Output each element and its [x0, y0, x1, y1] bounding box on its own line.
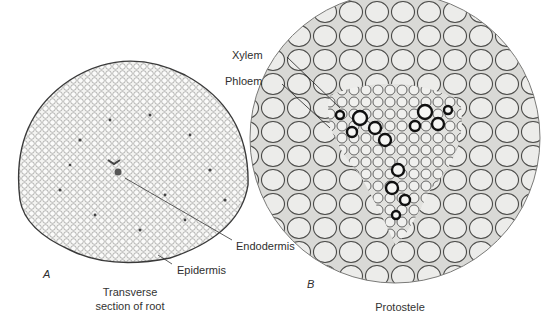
panel-b-caption: Protostele	[340, 300, 460, 314]
panel-letter-b: B	[307, 278, 314, 290]
endodermis-label: Endodermis	[236, 241, 295, 252]
figure-artwork	[0, 0, 552, 317]
xylem-label: Xylem	[232, 50, 263, 61]
panel-a-caption: Transverse section of root	[55, 285, 205, 313]
panel-letter-a: A	[43, 268, 50, 280]
epidermis-label: Epidermis	[177, 265, 226, 276]
panel-a-caption-line1: Transverse	[55, 285, 205, 299]
phloem-label: Phloem	[225, 76, 262, 87]
root-cross-section-image	[19, 61, 248, 264]
panel-a-caption-line2: section of root	[55, 299, 205, 313]
